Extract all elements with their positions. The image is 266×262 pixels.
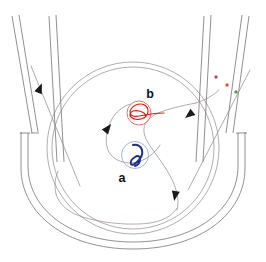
arrowhead-inner-left bbox=[102, 122, 114, 135]
inner-circle-outer bbox=[47, 62, 219, 234]
rail-lr-b bbox=[56, 15, 64, 162]
chord-track-left bbox=[31, 66, 80, 186]
primary-track-left-lobe bbox=[106, 104, 145, 163]
vertex-b-label: b bbox=[146, 87, 154, 101]
arrowhead-upper-right bbox=[183, 109, 196, 121]
hit-marker-green bbox=[234, 90, 237, 93]
vertex-b-group: b bbox=[127, 87, 164, 125]
rail-lr-a bbox=[49, 16, 57, 162]
primary-track-right-lobe bbox=[144, 103, 196, 210]
vertex-b-decay-curl bbox=[130, 104, 164, 119]
upper-left-outer-rail bbox=[12, 15, 39, 133]
chord-track-right bbox=[188, 70, 250, 190]
detector-event-svg: b a bbox=[0, 0, 266, 262]
chord-tracks bbox=[31, 66, 250, 190]
arrowhead-lower-right bbox=[170, 190, 180, 201]
rail-rr-b bbox=[233, 16, 249, 133]
rail-rl-b bbox=[203, 15, 211, 162]
hit-marker-maroon bbox=[214, 75, 217, 78]
primary-particle-track bbox=[106, 103, 196, 210]
secondary-track-bottom-sweep bbox=[56, 194, 177, 224]
arrowhead-upper-left bbox=[34, 82, 45, 94]
upper-right-inner-rail bbox=[196, 15, 211, 162]
vessel-outer-wall bbox=[21, 168, 245, 249]
hit-marker-orange bbox=[225, 83, 228, 86]
rail-rl-a bbox=[196, 16, 204, 162]
event-display-canvas: b a bbox=[0, 0, 266, 262]
upper-right-outer-rail bbox=[226, 15, 249, 133]
vertex-a-label: a bbox=[119, 171, 127, 185]
detector-vessel-outline bbox=[20, 132, 247, 249]
rail-rr-a bbox=[226, 15, 242, 133]
upper-left-inner-rail bbox=[49, 15, 64, 162]
inner-circle-inner bbox=[52, 67, 214, 229]
track-direction-arrows bbox=[34, 82, 195, 202]
inner-detector-circle bbox=[47, 62, 219, 234]
secondary-track-left-rise bbox=[55, 171, 58, 194]
